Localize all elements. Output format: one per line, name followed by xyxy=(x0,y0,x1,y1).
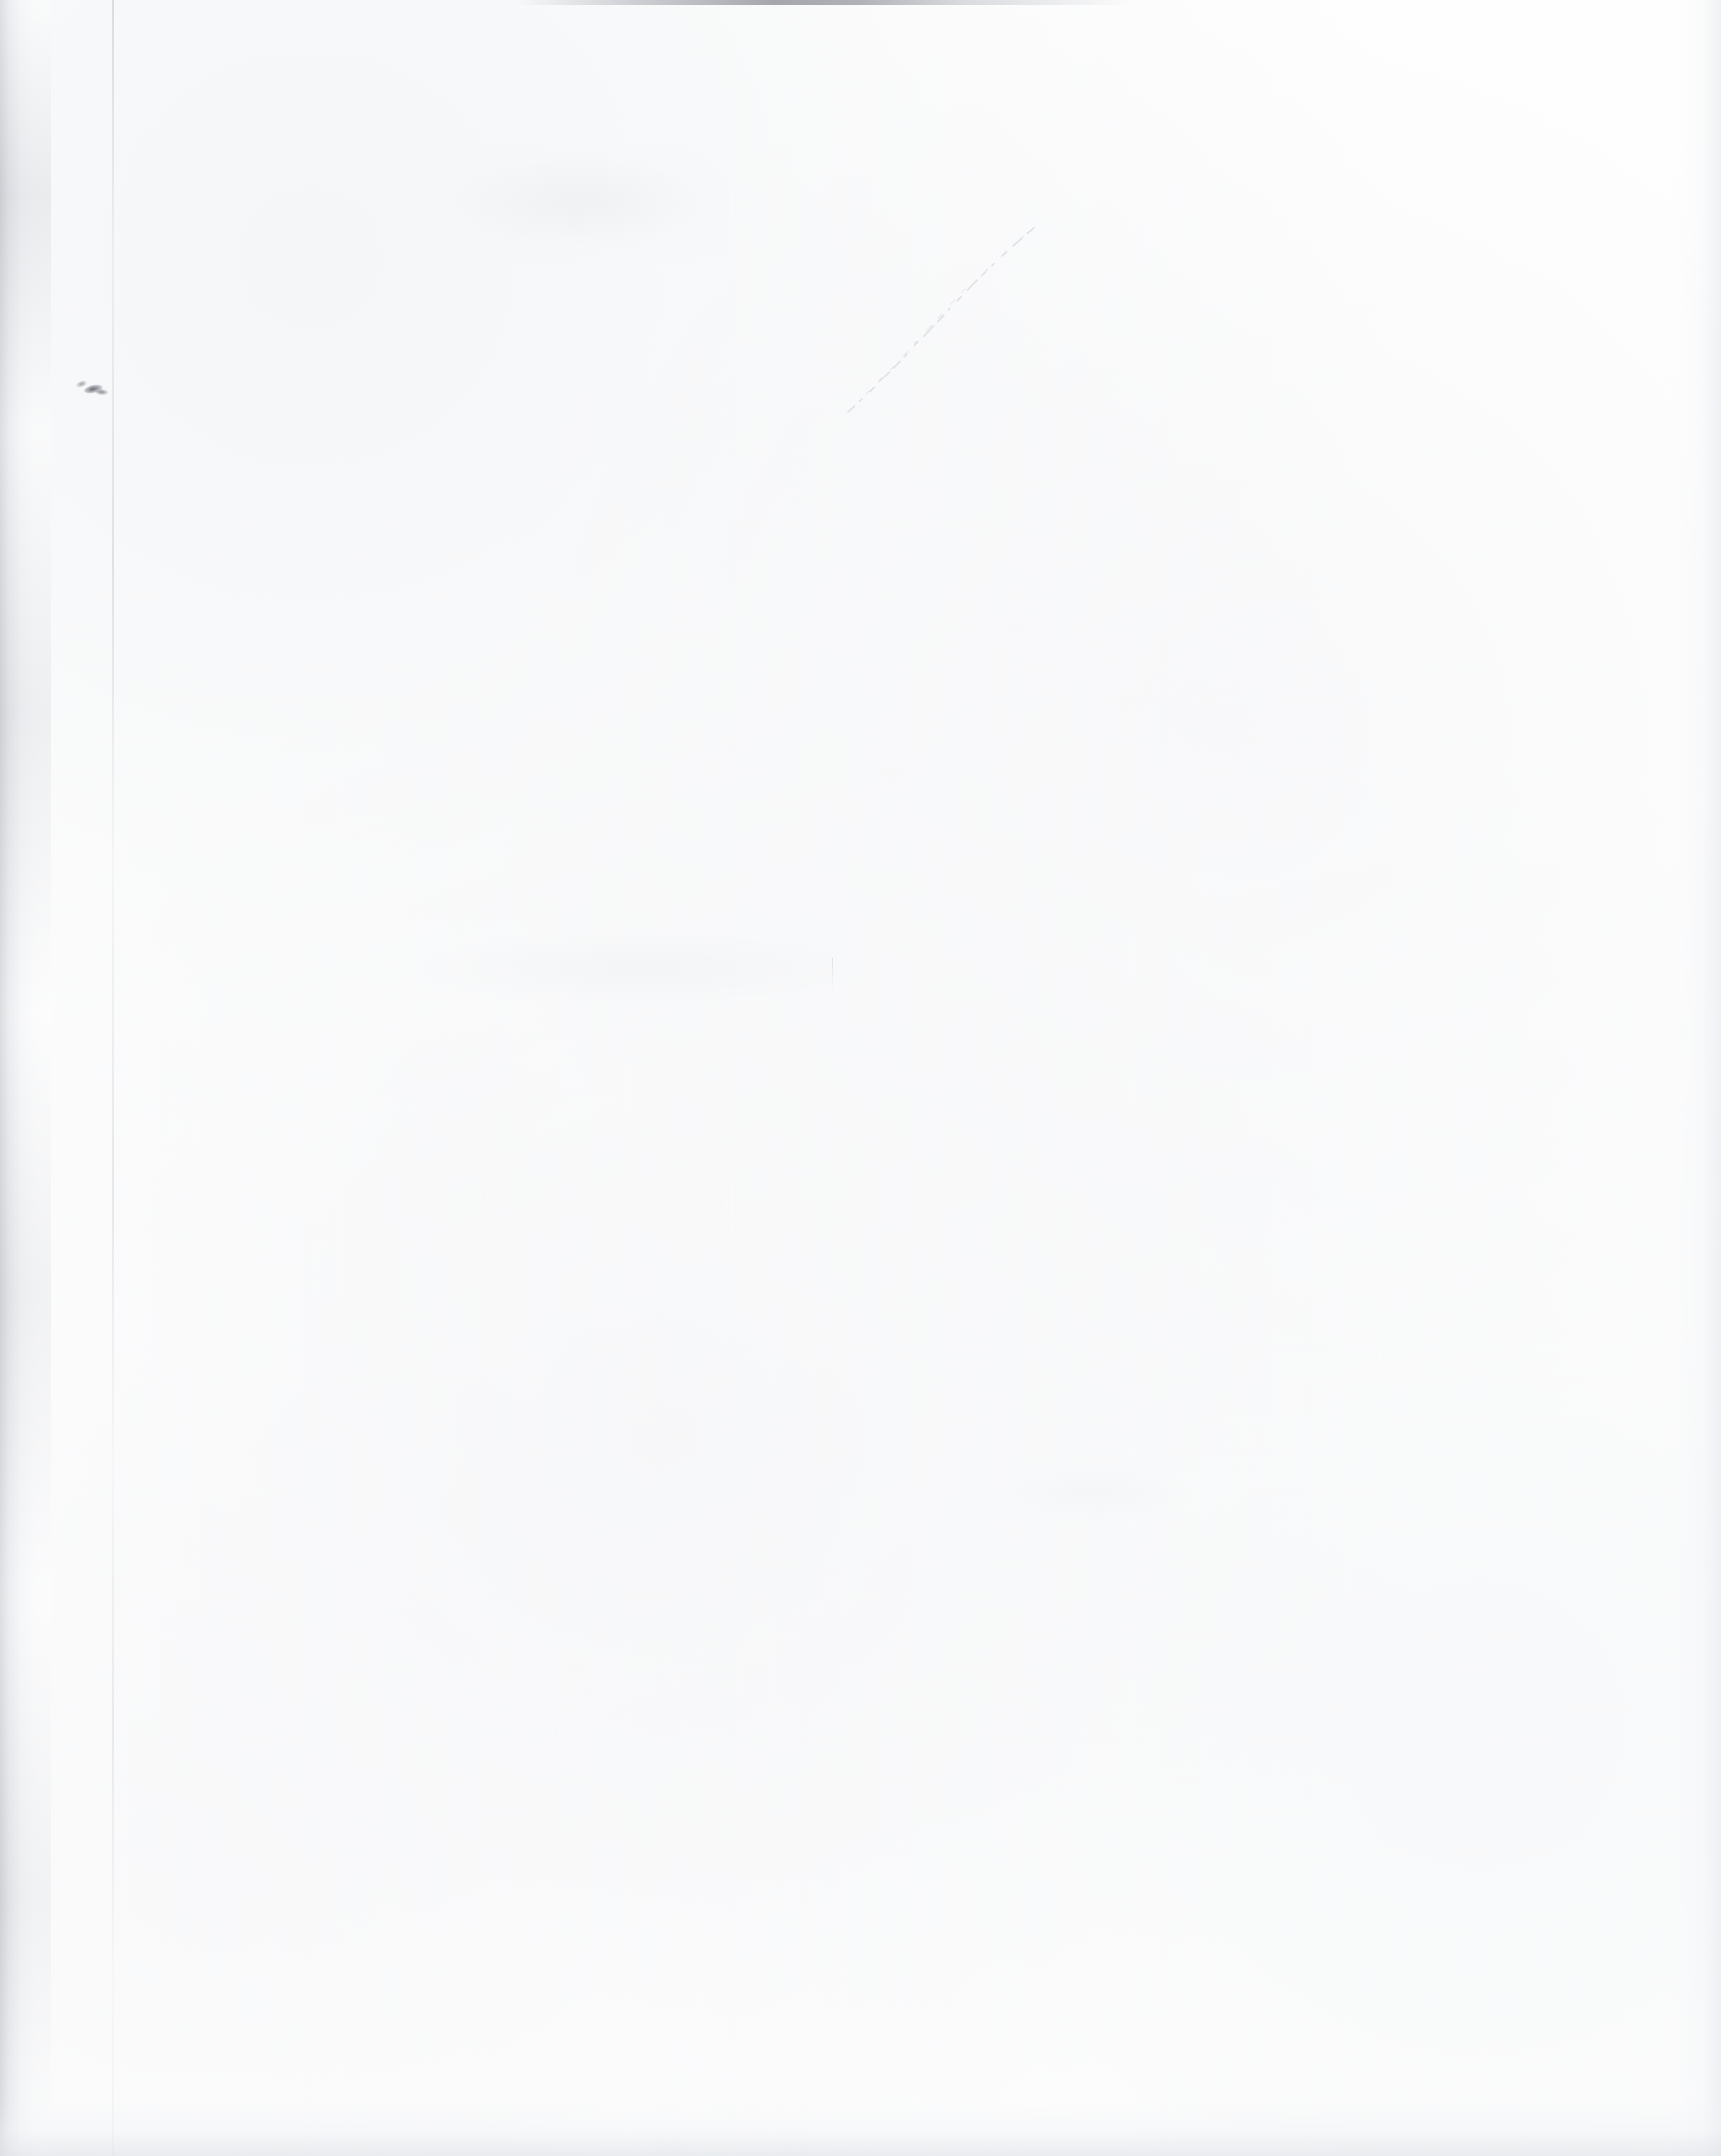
faint-diagonal-streak xyxy=(837,209,1099,418)
diagonal-streak-path xyxy=(837,209,1099,418)
page-edge-hairline xyxy=(112,0,114,2156)
scan-edge-line-top xyxy=(0,0,1721,5)
scan-shadow-bottom-edge xyxy=(0,2102,1721,2156)
ink-smudge-mark xyxy=(76,379,109,397)
ink-smudge-core xyxy=(83,383,103,395)
faint-shading-patch-lower-right xyxy=(983,1459,1206,1527)
ink-smudge-fleck-left xyxy=(75,379,87,388)
scan-shadow-right-edge xyxy=(1676,0,1721,2156)
scanned-page: Blank scanned document page with no prin… xyxy=(0,0,1721,2156)
scan-shadow-left-edge xyxy=(0,0,51,2156)
ink-smudge-tail xyxy=(95,388,109,395)
faint-tick-mark xyxy=(832,958,833,997)
faint-shading-patch-upper xyxy=(418,146,730,263)
faint-shading-patch-mid xyxy=(370,924,914,1012)
